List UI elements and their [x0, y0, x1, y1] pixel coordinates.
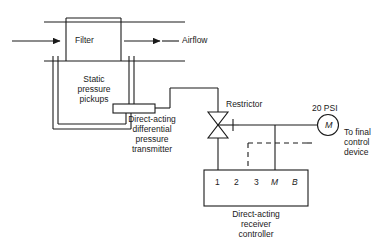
airflow-label: Airflow	[182, 35, 208, 45]
supply-pressure-label: 20 PSI	[312, 103, 338, 113]
controller-terminal-m: M	[271, 177, 278, 187]
restrictor-valve-upper-triangle	[208, 112, 228, 125]
controller-terminal-2: 2	[234, 177, 239, 187]
controller-terminal-b: B	[292, 177, 298, 187]
controller-terminal-1: 1	[215, 177, 220, 187]
controller-terminal-3: 3	[254, 177, 259, 187]
motor-symbol-label: M	[325, 120, 333, 130]
static-pressure-pickups-label: Static pressure pickups	[64, 74, 124, 104]
diagram-canvas: Filter Airflow Static pressure pickups D…	[0, 0, 390, 244]
restrictor-valve-lower-triangle	[208, 125, 228, 138]
filter-label: Filter	[75, 35, 94, 45]
restrictor-label: Restrictor	[226, 99, 262, 109]
dp-transmitter-body	[113, 104, 155, 113]
dp-transmitter-label: Direct-acting differential pressure tran…	[119, 114, 185, 154]
to-final-control-device-label: To final control device	[344, 127, 371, 157]
receiver-controller-label: Direct-acting receiver controller	[214, 209, 298, 239]
receiver-controller-box	[204, 170, 308, 206]
